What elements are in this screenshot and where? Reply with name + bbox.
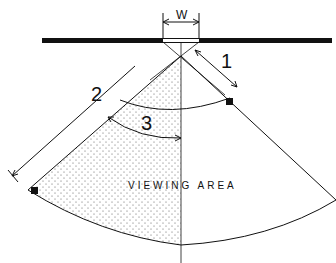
dimension-1-label: 1 xyxy=(221,51,232,71)
dimension-2-label: 2 xyxy=(91,84,102,104)
width-label: W xyxy=(176,9,187,21)
seat-marker-far xyxy=(31,187,38,194)
dimension-3-label: 3 xyxy=(141,113,152,133)
seat-marker-near xyxy=(226,98,233,105)
viewing-area-diagram: W 1 2 3 VIEWING AREA xyxy=(0,0,336,263)
stippled-region xyxy=(28,56,181,245)
viewing-area-label: VIEWING AREA xyxy=(128,181,237,191)
screen-opening xyxy=(163,39,199,42)
diagram-graphic xyxy=(0,0,336,263)
